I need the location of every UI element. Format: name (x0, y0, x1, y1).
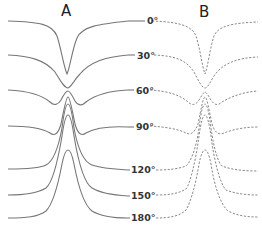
curve-a-90deg (8, 97, 128, 134)
curve-a-180deg (8, 150, 128, 218)
panel-b-curves (150, 21, 258, 218)
angle-labels: 0° 30° 60° 90° 120° 150° 180° (131, 15, 158, 223)
angle-label-150deg: 150° (131, 190, 156, 201)
curve-b-180deg (156, 150, 258, 218)
angle-label-60deg: 60° (136, 85, 154, 96)
curve-b-150deg (156, 115, 258, 195)
panel-a-title: A (61, 2, 72, 20)
angle-label-90deg: 90° (136, 121, 154, 132)
angle-label-0deg: 0° (147, 15, 158, 26)
curve-b-30deg (154, 55, 258, 88)
angle-label-30deg: 30° (137, 50, 155, 61)
curve-b-120deg (156, 104, 258, 171)
curve-a-120deg (8, 104, 128, 170)
curve-b-0deg (152, 21, 258, 74)
angle-label-180deg: 180° (131, 212, 156, 223)
angle-label-120deg: 120° (131, 164, 156, 175)
panel-a-curves (8, 21, 128, 218)
angle-spectra-figure: A B 0° 30° 60° 90° 120° 150° 180° (0, 0, 262, 226)
curve-a-0deg (8, 21, 128, 74)
panel-b-title: B (199, 3, 209, 21)
